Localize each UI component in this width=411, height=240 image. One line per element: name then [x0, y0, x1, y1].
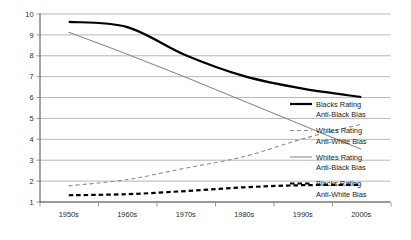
y-axis-label: 5 — [29, 114, 33, 123]
line-chart: 123456789101950s1960s1970s1980s1990s2000… — [0, 0, 411, 240]
legend-label-3-line2: Anti-Black Bias — [316, 163, 366, 172]
legend-label-2-line2: Anti-White Bias — [316, 137, 367, 146]
y-axis-label: 9 — [29, 31, 33, 40]
x-axis-group: 1950s1960s1970s1980s1990s2000s — [40, 203, 391, 219]
y-axis-label: 1 — [29, 198, 33, 207]
legend-label-4-line2: Anti-White Bias — [316, 190, 367, 199]
x-axis-label: 1960s — [117, 210, 137, 219]
x-axis-label: 1970s — [176, 210, 196, 219]
x-axis-label: 2000s — [351, 210, 371, 219]
legend-label-1-line1: Blacks Rating — [316, 100, 361, 109]
x-axis-label: 1990s — [293, 210, 313, 219]
y-axis-label: 10 — [25, 10, 33, 19]
legend: Blacks RatingAnti-Black BiasWhites Ratin… — [290, 100, 367, 199]
y-axis-label: 4 — [29, 135, 33, 144]
y-axis-label: 6 — [29, 93, 33, 102]
series-line-1 — [69, 22, 362, 97]
y-axis-label: 3 — [29, 156, 33, 165]
y-axis-label: 2 — [29, 177, 33, 186]
x-axis-label: 1980s — [234, 210, 254, 219]
y-axis-label: 8 — [29, 51, 33, 60]
y-axis-label: 7 — [29, 72, 33, 81]
x-axis-label: 1950s — [59, 210, 79, 219]
legend-label-1-line2: Anti-Black Bias — [316, 110, 366, 119]
legend-label-2-line1: Whites Rating — [316, 126, 362, 135]
chart-container: 123456789101950s1960s1970s1980s1990s2000… — [0, 0, 411, 240]
legend-label-3-line1: Whites Rating — [316, 153, 362, 162]
legend-label-4-line1: Blacks Rating — [316, 179, 361, 188]
